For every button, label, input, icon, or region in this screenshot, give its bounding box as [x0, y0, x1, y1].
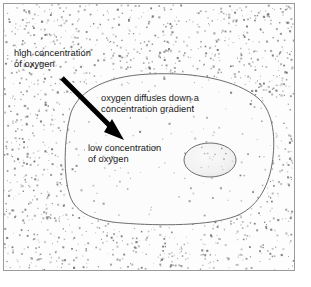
label-high-concentration: high concentration of oxygen: [14, 48, 91, 71]
nucleus: [184, 143, 236, 177]
label-low-concentration: low concentration of oxygen: [88, 143, 161, 166]
diffusion-diagram: high concentration of oxygen oxygen diff…: [0, 0, 311, 287]
label-diffusion-gradient: oxygen diffuses down a concentration gra…: [101, 93, 199, 116]
